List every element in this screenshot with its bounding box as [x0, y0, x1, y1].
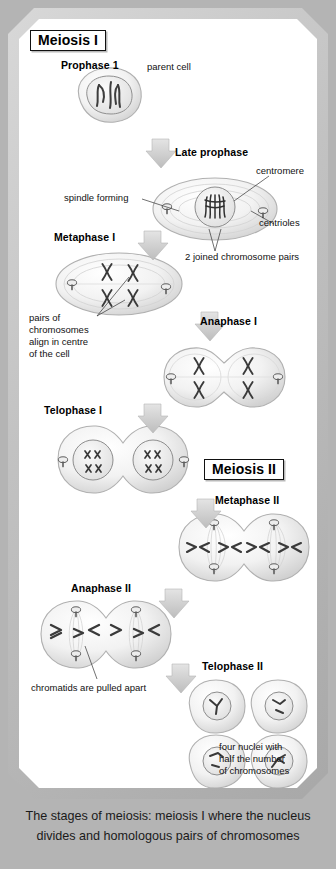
phase-title-late-prophase: Late prophase — [175, 146, 248, 158]
annotation-chromatids-pulled-apart: chromatids are pulled apart — [31, 682, 146, 694]
annotation-pairs-align-line2: chromosomes — [29, 324, 89, 336]
annotation-four-nuclei-line2: half the number — [219, 753, 285, 765]
annotation-spindle-forming: spindle forming — [64, 192, 128, 204]
cell-anaphase-1 — [164, 348, 285, 407]
phase-title-anaphase-1: Anaphase I — [200, 315, 257, 327]
cell-metaphase-2 — [179, 514, 309, 581]
cell-prophase-1 — [78, 68, 141, 122]
cell-anaphase-2 — [41, 601, 171, 668]
cell-late-prophase — [153, 178, 277, 240]
section-box-meiosis-1: Meiosis I — [30, 30, 106, 51]
meiosis-diagram-figure: Meiosis I Meiosis II Prophase 1 Late pro… — [0, 0, 336, 869]
phase-title-prophase-1: Prophase 1 — [61, 59, 119, 71]
cell-telophase-1 — [58, 426, 189, 493]
phase-title-telophase-2: Telophase II — [202, 660, 263, 672]
diagram-canvas: Meiosis I Meiosis II Prophase 1 Late pro… — [19, 19, 317, 788]
annotation-pairs-align-line3: align in centre — [29, 336, 88, 348]
cell-metaphase-1 — [56, 253, 182, 315]
annotation-pairs-align-line1: pairs of — [29, 312, 60, 324]
annotation-centrioles: centrioles — [259, 217, 300, 229]
annotation-parent-cell: parent cell — [147, 61, 191, 73]
annotation-centromere: centromere — [256, 165, 304, 177]
phase-title-telophase-1: Telophase I — [44, 404, 102, 416]
figure-caption: The stages of meiosis: meiosis I where t… — [0, 800, 336, 869]
annotation-four-nuclei-line1: four nuclei with — [219, 741, 282, 753]
annotation-pairs-align-line4: of the cell — [29, 348, 70, 360]
section-box-meiosis-2: Meiosis II — [204, 459, 284, 480]
phase-title-metaphase-1: Metaphase I — [54, 231, 115, 243]
phase-title-anaphase-2: Anaphase II — [71, 582, 131, 594]
annotation-joined-chromosome-pairs: 2 joined chromosome pairs — [185, 251, 299, 263]
annotation-four-nuclei-line3: of chromosomes — [219, 765, 289, 777]
caption-line-1: The stages of meiosis: meiosis I where t… — [0, 806, 336, 826]
phase-title-metaphase-2: Metaphase II — [215, 494, 279, 506]
caption-line-2: divides and homologous pairs of chromoso… — [0, 826, 336, 846]
